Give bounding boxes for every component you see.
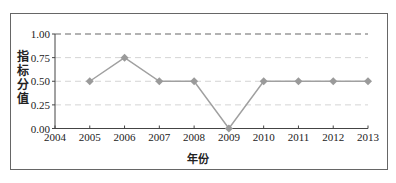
y-axis-label-char: 分	[16, 78, 30, 92]
x-tick-label: 2006	[114, 131, 137, 143]
data-point-marker	[364, 77, 372, 85]
data-line	[90, 58, 368, 129]
y-tick-label: 0.25	[31, 99, 51, 111]
x-tick-label: 2012	[322, 131, 344, 143]
y-tick-label: 0.75	[31, 52, 51, 64]
x-tick-label: 2008	[183, 131, 206, 143]
x-tick-label: 2007	[148, 131, 171, 143]
x-tick-label: 2011	[288, 131, 310, 143]
y-tick-label: 1.00	[31, 28, 51, 40]
y-axis-label-char: 值	[16, 92, 30, 106]
x-tick-label: 2009	[218, 131, 241, 143]
y-tick-label: 0.50	[31, 75, 51, 87]
y-axis-label: 指 标 分 值	[16, 50, 30, 106]
y-axis-label-char: 标	[16, 64, 30, 78]
y-axis-label-char: 指	[16, 50, 30, 64]
data-point-marker	[294, 77, 302, 85]
x-tick-label: 2010	[253, 131, 276, 143]
data-point-marker	[329, 77, 337, 85]
x-axis-label: 年份	[0, 150, 396, 166]
x-tick-label: 2004	[44, 131, 67, 143]
x-tick-label: 2005	[79, 131, 102, 143]
x-tick-label: 2013	[357, 131, 380, 143]
